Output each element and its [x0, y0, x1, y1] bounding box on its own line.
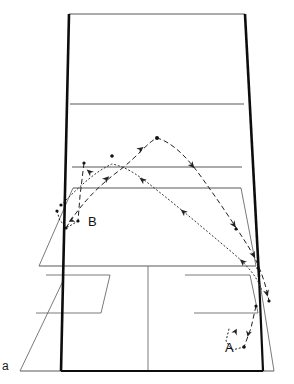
court-fill [20, 14, 274, 371]
trajectory-label-b: B [88, 215, 97, 228]
court-surface [20, 14, 274, 371]
panel-label: a [2, 360, 9, 372]
marker-a-apex [110, 154, 114, 158]
figure-root: B A a [0, 0, 294, 384]
marker-a-bounce [242, 345, 246, 349]
marker-b-bounce [76, 219, 79, 222]
marker-a-left [59, 203, 62, 206]
marker-b-apex [155, 136, 159, 140]
marker-b-descent-2 [256, 266, 259, 269]
court-diagram [0, 0, 294, 384]
marker-b-start [64, 226, 67, 229]
marker-b-descent-1 [234, 227, 237, 230]
marker-b-descent-3 [267, 299, 270, 302]
marker-b-rebound-end [55, 209, 58, 212]
marker-b-top-left [82, 161, 85, 164]
marker-a-descent [254, 304, 257, 307]
trajectory-label-a: A [225, 341, 234, 354]
